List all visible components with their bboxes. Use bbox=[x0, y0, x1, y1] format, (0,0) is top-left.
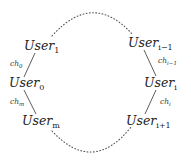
edge-label-chi: chi bbox=[160, 97, 171, 107]
edge-label-chi-1: chi−1 bbox=[158, 56, 177, 66]
edge-useri-1-useri bbox=[144, 50, 156, 76]
node-user-m: Userm bbox=[22, 113, 60, 130]
node-user-i-plus-1: Useri+1 bbox=[126, 113, 171, 130]
user-ring-diagram: User1 User0 Userm Useri−1 Useri Useri+1 … bbox=[0, 0, 191, 160]
node-user-i: Useri bbox=[144, 75, 177, 92]
edge-label-ch0: ch0 bbox=[10, 59, 23, 69]
dotted-arc-top bbox=[52, 13, 133, 36]
dotted-arc-bottom bbox=[52, 127, 131, 152]
node-user-0: User0 bbox=[9, 75, 44, 92]
edge-useri-useri+1 bbox=[145, 90, 156, 114]
edge-label-chm: chm bbox=[10, 97, 24, 107]
node-user-1: User1 bbox=[24, 38, 59, 55]
edge-user1-user0 bbox=[24, 53, 35, 77]
edge-user0-userm bbox=[24, 90, 36, 114]
node-user-i-minus-1: Useri−1 bbox=[128, 35, 173, 52]
